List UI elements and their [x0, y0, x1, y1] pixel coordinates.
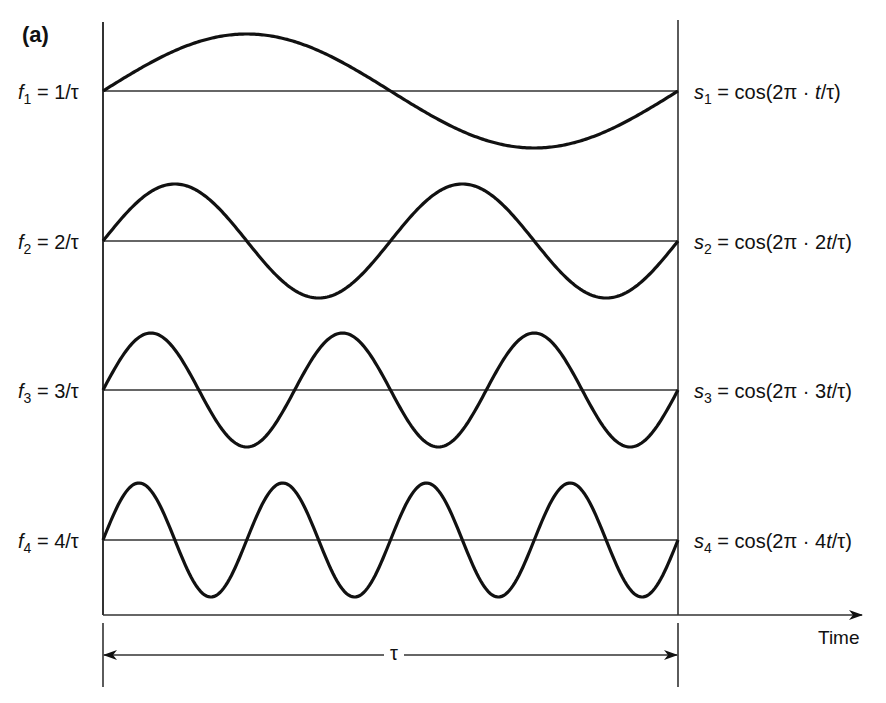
signal-label-1: s1 = cos(2π · t/τ) [694, 82, 841, 106]
waveforms [103, 34, 678, 597]
signal-label-4: s4 = cos(2π · 4t/τ) [694, 531, 852, 555]
signal-label-3: s3 = cos(2π · 3t/τ) [694, 381, 852, 405]
freq-label-3: f3 = 3/τ [18, 381, 79, 405]
freq-label-1: f1 = 1/τ [18, 82, 79, 106]
freq-label-2: f2 = 2/τ [18, 232, 79, 256]
baselines [103, 91, 678, 540]
time-axis-label: Time [818, 627, 860, 649]
period-label: τ [384, 642, 404, 665]
panel-label: (a) [22, 22, 49, 48]
signal-label-2: s2 = cos(2π · 2t/τ) [694, 232, 852, 256]
freq-label-4: f4 = 4/τ [18, 531, 79, 555]
